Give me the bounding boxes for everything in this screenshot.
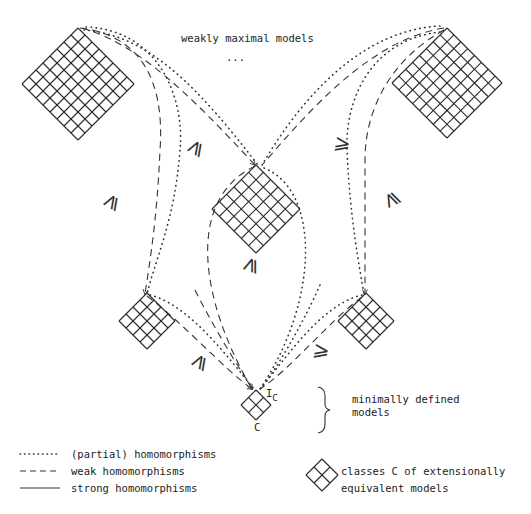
legend-diamond-icon — [306, 459, 338, 491]
geq-symbol: ⩾ — [96, 188, 125, 215]
geq-symbol: ⩾ — [332, 129, 353, 156]
minimally-defined-label: minimally defined — [352, 393, 459, 405]
ic-label: IC — [266, 387, 278, 403]
dashed-arrow-mr-bottom — [260, 297, 362, 389]
ellipsis: ... — [226, 51, 245, 63]
legend-diamond-label-2: equivalent models — [341, 482, 448, 494]
model-class-diamond-mid-right — [338, 293, 394, 349]
dotted-arrow-tl-ml — [86, 27, 181, 294]
geq-symbol: ⩾ — [376, 188, 405, 213]
dashed-arrow-tr-center — [262, 28, 444, 165]
legend: (partial) homomorphisms weak homomorphis… — [20, 448, 505, 494]
model-class-diamond-center — [212, 165, 300, 253]
dotted-arrow-tr-center — [262, 26, 440, 165]
legend-diamond-label-1: classes C of extensionally — [341, 465, 505, 477]
geq-symbol: ⩾ — [311, 336, 332, 363]
geq-symbol: ⩾ — [235, 253, 263, 277]
brace — [318, 387, 330, 433]
dotted-arrow-tr-mr — [347, 32, 440, 294]
dotted-arrow-mr-bottom — [260, 295, 362, 389]
homomorphism-diagram: ⩾ ⩾ ⩾ ⩾ ⩾ ⩾ ⩾ weakly maximal models ... … — [0, 0, 531, 514]
model-class-diamond-top-left — [22, 28, 134, 140]
dotted-arrow-ml-bottom — [150, 295, 254, 389]
geq-symbol: ⩾ — [184, 348, 213, 375]
legend-dotted-label: (partial) homomorphisms — [71, 448, 216, 460]
dashed-arrow-tl-ml — [80, 28, 161, 294]
models-label: models — [352, 406, 390, 418]
model-class-diamond-mid-left — [119, 293, 175, 349]
c-label: C — [254, 421, 260, 433]
geq-symbol: ⩾ — [180, 134, 209, 161]
model-class-diamond-top-right — [392, 28, 502, 138]
weakly-maximal-label: weakly maximal models — [181, 32, 314, 44]
order-symbols: ⩾ ⩾ ⩾ ⩾ ⩾ ⩾ ⩾ — [96, 129, 405, 374]
legend-diamond-shape — [306, 459, 338, 491]
legend-solid-label: strong homomorphisms — [71, 482, 197, 494]
dotted-arrow-center-right-bottom — [261, 285, 320, 389]
legend-dashed-label: weak homomorphisms — [71, 465, 185, 477]
dashed-arrow-ml-bottom — [147, 296, 252, 389]
